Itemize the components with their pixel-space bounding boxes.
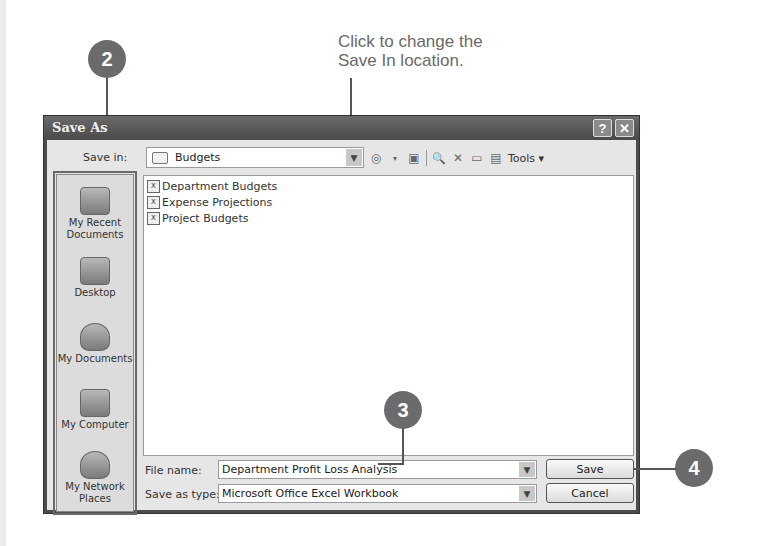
save-as-type-label: Save as type: — [145, 488, 220, 501]
chevron-down-icon[interactable]: ▼ — [346, 149, 362, 166]
help-button[interactable]: ? — [593, 119, 612, 137]
place-label: My Computer — [57, 419, 133, 431]
callout-3-leader-vertical — [402, 428, 404, 465]
back-dropdown-icon[interactable]: ▾ — [388, 149, 402, 167]
callout-3-number: 3 — [397, 399, 408, 422]
delete-icon[interactable]: ✕ — [451, 149, 465, 167]
place-my-documents[interactable]: My Documents — [57, 323, 133, 365]
excel-file-icon: X — [147, 180, 160, 193]
network-places-icon — [80, 451, 110, 479]
callout-4-leader — [633, 468, 676, 470]
save-in-dropdown[interactable]: Budgets ▼ — [146, 147, 364, 168]
chevron-down-icon[interactable]: ▼ — [519, 462, 535, 477]
file-name-label: File name: — [145, 464, 202, 477]
caption-line-2: Save In location. — [338, 51, 483, 70]
page-edge-strip — [0, 0, 6, 546]
file-name: Department Budgets — [162, 180, 277, 193]
desktop-icon — [80, 257, 110, 285]
recent-documents-icon — [80, 187, 110, 215]
file-name: Project Budgets — [162, 212, 248, 225]
my-documents-icon — [80, 323, 110, 351]
save-button[interactable]: Save — [546, 459, 634, 479]
dialog-client-area: Save in: Budgets ▼ ◎ ▾ ▣ 🔍 ✕ ▭ ▤ Tools ▾… — [47, 140, 636, 510]
my-computer-icon — [80, 389, 110, 417]
save-as-dialog: Save As ? ✕ Save in: Budgets ▼ ◎ ▾ ▣ 🔍 ✕… — [43, 115, 640, 514]
tools-menu[interactable]: Tools ▾ — [508, 149, 544, 167]
save-in-value: Budgets — [175, 151, 220, 164]
file-item[interactable]: X Project Budgets — [147, 210, 248, 226]
save-as-type-value: Microsoft Office Excel Workbook — [222, 487, 398, 500]
file-name: Expense Projections — [162, 196, 272, 209]
chevron-down-icon[interactable]: ▼ — [519, 486, 535, 501]
place-label: My Recent — [57, 217, 133, 229]
callout-4-number: 4 — [688, 457, 699, 480]
save-in-caption: Click to change the Save In location. — [338, 32, 483, 70]
place-label: Desktop — [57, 287, 133, 299]
file-name-value: Department Profit Loss Analysis — [222, 463, 397, 476]
titlebar[interactable]: Save As ? ✕ — [44, 116, 639, 140]
place-my-recent-documents[interactable]: My Recent Documents — [57, 187, 133, 241]
toolbar-separator — [426, 150, 427, 166]
place-label: Documents — [57, 229, 133, 241]
place-label: Places — [57, 493, 133, 505]
callout-2-number: 2 — [101, 48, 112, 71]
dialog-title: Save As — [52, 120, 108, 135]
file-item[interactable]: X Expense Projections — [147, 194, 272, 210]
excel-file-icon: X — [147, 196, 160, 209]
folder-icon — [152, 152, 168, 164]
save-in-label: Save in: — [83, 151, 127, 164]
close-button[interactable]: ✕ — [615, 119, 634, 137]
excel-file-icon: X — [147, 212, 160, 225]
callout-4: 4 — [675, 449, 713, 487]
search-web-icon[interactable]: 🔍 — [432, 149, 446, 167]
callout-3: 3 — [384, 391, 422, 429]
place-my-network-places[interactable]: My Network Places — [57, 451, 133, 505]
places-bar: My Recent Documents Desktop My Documents… — [56, 174, 134, 512]
callout-3-leader-horizontal — [378, 463, 404, 465]
new-folder-icon[interactable]: ▭ — [470, 149, 484, 167]
caption-line-1: Click to change the — [338, 32, 483, 51]
place-my-computer[interactable]: My Computer — [57, 389, 133, 431]
file-item[interactable]: X Department Budgets — [147, 178, 277, 194]
cancel-button[interactable]: Cancel — [546, 483, 634, 503]
place-label: My Documents — [57, 353, 133, 365]
place-desktop[interactable]: Desktop — [57, 257, 133, 299]
callout-2: 2 — [88, 40, 126, 78]
save-as-type-dropdown[interactable]: Microsoft Office Excel Workbook ▼ — [218, 484, 537, 503]
back-icon[interactable]: ◎ — [369, 149, 383, 167]
views-icon[interactable]: ▤ — [489, 149, 503, 167]
place-label: My Network — [57, 481, 133, 493]
dialog-toolbar: ◎ ▾ ▣ 🔍 ✕ ▭ ▤ Tools ▾ — [369, 148, 544, 168]
up-folder-icon[interactable]: ▣ — [407, 149, 421, 167]
